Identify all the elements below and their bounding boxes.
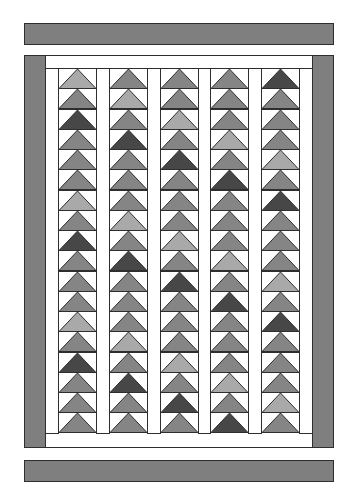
flying-geese-block [161, 272, 198, 292]
column-1 [58, 69, 97, 434]
goose-triangle-icon [262, 231, 299, 251]
flying-geese-block [161, 332, 198, 352]
left-border-strip [25, 56, 46, 447]
goose-triangle-icon [110, 373, 147, 393]
flying-geese-block [161, 413, 198, 433]
goose-triangle-icon [211, 373, 248, 393]
column-3 [160, 69, 199, 434]
goose-triangle-icon [211, 211, 248, 231]
flying-geese-block [161, 69, 198, 89]
goose-triangle-icon [211, 292, 248, 312]
flying-geese-block [161, 211, 198, 231]
goose-triangle-icon [59, 353, 96, 373]
flying-geese-block [59, 373, 96, 393]
goose-triangle-icon [211, 110, 248, 130]
flying-geese-block [110, 211, 147, 231]
goose-triangle-icon [161, 211, 198, 231]
flying-geese-block [110, 130, 147, 150]
flying-geese-block [262, 353, 299, 373]
goose-triangle-icon [161, 332, 198, 352]
flying-geese-block [59, 211, 96, 231]
goose-triangle-icon [211, 272, 248, 292]
goose-triangle-icon [211, 332, 248, 352]
goose-triangle-icon [262, 353, 299, 373]
flying-geese-block [110, 373, 147, 393]
goose-triangle-icon [59, 312, 96, 332]
goose-triangle-icon [161, 312, 198, 332]
goose-triangle-icon [110, 251, 147, 271]
flying-geese-block [110, 89, 147, 109]
goose-triangle-icon [262, 89, 299, 109]
goose-triangle-icon [262, 110, 299, 130]
goose-triangle-icon [110, 413, 147, 433]
goose-triangle-icon [161, 292, 198, 312]
flying-geese-block [110, 272, 147, 292]
goose-triangle-icon [161, 413, 198, 433]
flying-geese-block [59, 110, 96, 130]
goose-triangle-icon [262, 332, 299, 352]
goose-triangle-icon [211, 353, 248, 373]
flying-geese-block [211, 413, 248, 433]
flying-geese-block [59, 332, 96, 352]
goose-triangle-icon [262, 251, 299, 271]
flying-geese-block [211, 231, 248, 251]
goose-triangle-icon [262, 69, 299, 89]
goose-triangle-icon [211, 251, 248, 271]
goose-triangle-icon [59, 272, 96, 292]
flying-geese-block [211, 312, 248, 332]
flying-geese-block [110, 251, 147, 271]
goose-triangle-icon [59, 89, 96, 109]
goose-triangle-icon [110, 353, 147, 373]
goose-triangle-icon [161, 272, 198, 292]
goose-triangle-icon [110, 89, 147, 109]
goose-triangle-icon [110, 150, 147, 170]
flying-geese-block [59, 69, 96, 89]
flying-geese-block [262, 231, 299, 251]
goose-triangle-icon [262, 312, 299, 332]
flying-geese-block [262, 170, 299, 190]
goose-triangle-icon [211, 170, 248, 190]
flying-geese-block [262, 373, 299, 393]
flying-geese-block [59, 292, 96, 312]
flying-geese-block [211, 110, 248, 130]
flying-geese-block [161, 170, 198, 190]
column-2 [109, 69, 148, 434]
flying-geese-block [211, 150, 248, 170]
column-5 [261, 69, 300, 434]
goose-triangle-icon [59, 170, 96, 190]
goose-triangle-icon [211, 312, 248, 332]
flying-geese-block [110, 393, 147, 413]
flying-geese-block [262, 191, 299, 211]
goose-triangle-icon [59, 69, 96, 89]
flying-geese-block [59, 170, 96, 190]
flying-geese-block [211, 170, 248, 190]
flying-geese-block [59, 312, 96, 332]
goose-triangle-icon [211, 69, 248, 89]
flying-geese-block [110, 231, 147, 251]
flying-geese-block [161, 393, 198, 413]
flying-geese-block [211, 211, 248, 231]
flying-geese-block [110, 353, 147, 373]
flying-geese-block [262, 272, 299, 292]
goose-triangle-icon [59, 251, 96, 271]
goose-triangle-icon [110, 231, 147, 251]
flying-geese-block [110, 110, 147, 130]
flying-geese-block [161, 312, 198, 332]
flying-geese-block [110, 332, 147, 352]
goose-triangle-icon [161, 110, 198, 130]
flying-geese-block [161, 89, 198, 109]
flying-geese-block [211, 332, 248, 352]
flying-geese-block [211, 393, 248, 413]
goose-triangle-icon [211, 393, 248, 413]
flying-geese-block [161, 353, 198, 373]
goose-triangle-icon [211, 231, 248, 251]
flying-geese-block [110, 312, 147, 332]
goose-triangle-icon [110, 272, 147, 292]
right-border-strip [312, 56, 333, 447]
goose-triangle-icon [59, 150, 96, 170]
flying-geese-block [262, 312, 299, 332]
goose-triangle-icon [262, 272, 299, 292]
flying-geese-block [161, 110, 198, 130]
flying-geese-block [211, 272, 248, 292]
flying-geese-block [211, 353, 248, 373]
